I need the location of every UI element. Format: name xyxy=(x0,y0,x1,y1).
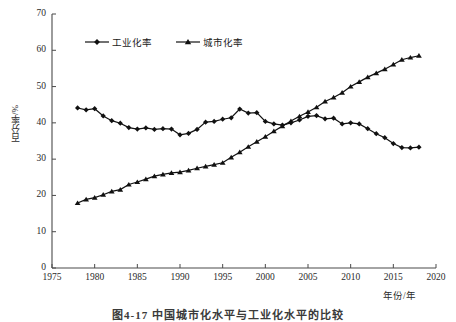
axis-lines xyxy=(52,14,436,268)
x-axis-title: 年份/年 xyxy=(383,288,416,302)
y-tick-label: 30 xyxy=(20,153,46,163)
x-tick-label: 1995 xyxy=(210,272,236,282)
legend-label: 城市化率 xyxy=(203,35,243,49)
y-tick-label: 70 xyxy=(20,8,46,18)
x-tick-label: 2010 xyxy=(338,272,364,282)
x-tick-label: 2015 xyxy=(380,272,406,282)
legend-label: 工业化率 xyxy=(112,35,152,49)
y-axis-ticks xyxy=(52,14,56,268)
x-tick-label: 1975 xyxy=(39,272,65,282)
x-tick-label: 1985 xyxy=(124,272,150,282)
y-tick-label: 10 xyxy=(20,226,46,236)
y-tick-label: 60 xyxy=(20,44,46,54)
y-tick-label: 40 xyxy=(20,117,46,127)
x-tick-label: 1980 xyxy=(82,272,108,282)
data-series-layer xyxy=(75,53,422,205)
y-tick-label: 20 xyxy=(20,189,46,199)
x-axis-ticks xyxy=(52,264,436,268)
x-tick-label: 2005 xyxy=(295,272,321,282)
x-tick-label: 2020 xyxy=(423,272,449,282)
x-tick-label: 2000 xyxy=(252,272,278,282)
series-diamond xyxy=(75,105,422,150)
y-tick-label: 50 xyxy=(20,81,46,91)
figure-caption: 图4-17 中国城市化水平与工业化水平的比较 xyxy=(0,306,456,322)
x-tick-label: 1990 xyxy=(167,272,193,282)
y-tick-label: 0 xyxy=(20,262,46,272)
